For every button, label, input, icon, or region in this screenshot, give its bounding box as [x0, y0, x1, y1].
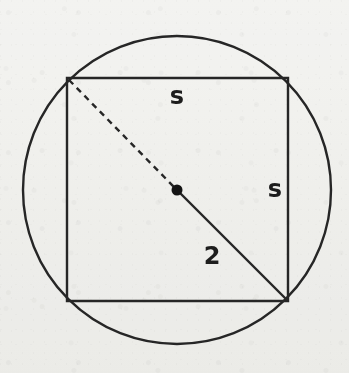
geometry-figure: Square inscribed in a circle s s 2	[0, 0, 349, 373]
label-side-right: s	[268, 175, 282, 203]
label-side-top: s	[170, 82, 184, 110]
label-radius-value: 2	[204, 242, 221, 270]
inscribed-square-diagram: Square inscribed in a circle s s 2	[0, 0, 349, 373]
dashed-radius-line	[69, 80, 175, 188]
circle-center-dot	[172, 185, 183, 196]
solid-radius-line	[179, 192, 287, 300]
